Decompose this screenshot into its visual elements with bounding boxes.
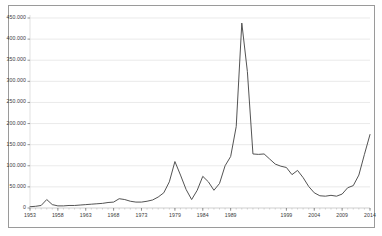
y-tick-label: 250.000 — [0, 100, 26, 105]
x-tick-label: 1979 — [169, 213, 181, 218]
x-tick-label: 1973 — [135, 213, 147, 218]
x-tick-label: 2004 — [308, 213, 320, 218]
data-line-value — [30, 23, 370, 207]
gridlines-group — [30, 15, 370, 208]
y-tick-label: 300.000 — [0, 79, 26, 84]
y-tick-label: 0 — [0, 205, 26, 210]
y-tick-label: 50.000 — [0, 184, 26, 189]
y-tick-marks-group — [28, 18, 31, 208]
chart-svg-layer — [0, 0, 382, 236]
x-tick-label: 1984 — [197, 213, 209, 218]
x-tick-label: 2014 — [364, 213, 376, 218]
x-tick-label: 1958 — [52, 213, 64, 218]
x-tick-label: 2009 — [336, 213, 348, 218]
y-tick-label: 350.000 — [0, 58, 26, 63]
y-tick-label: 150.000 — [0, 142, 26, 147]
y-tick-label: 400.000 — [0, 37, 26, 42]
x-tick-label: 1963 — [80, 213, 92, 218]
chart-container: 450.000400.000350.000300.000250.000200.0… — [0, 0, 382, 236]
data-series-group — [30, 23, 370, 207]
x-tick-label: 1999 — [280, 213, 292, 218]
x-tick-marks-group — [30, 208, 370, 211]
y-tick-label: 200.000 — [0, 121, 26, 126]
y-tick-label: 450.000 — [0, 15, 26, 20]
x-tick-label: 1968 — [108, 213, 120, 218]
x-tick-label: 1989 — [225, 213, 237, 218]
y-tick-label: 100.000 — [0, 163, 26, 168]
x-tick-label: 1953 — [24, 213, 36, 218]
